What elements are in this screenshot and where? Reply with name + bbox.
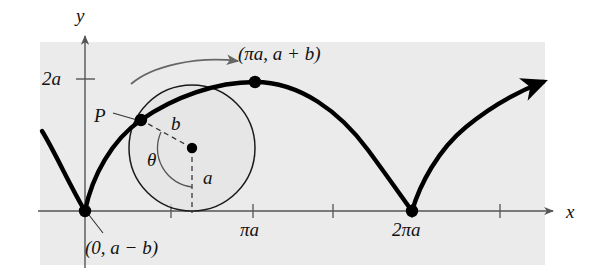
y-axis-label: y <box>76 6 84 25</box>
point-start-cusp <box>79 205 91 217</box>
y-tick-label-2a: 2a <box>42 69 61 88</box>
top-point-label: (πa, a + b) <box>238 44 321 63</box>
x-tick-label-2pia: 2πa <box>392 220 421 239</box>
start-point-label: (0, a − b) <box>85 238 158 257</box>
cycloid-figure: y x 2a P b a θ (πa, a + b) (0, a − b) πa… <box>0 0 597 280</box>
circle-center-dot <box>187 143 197 153</box>
point-second-cusp <box>406 205 418 217</box>
shaded-panel <box>40 42 545 265</box>
x-axis-label: x <box>566 202 574 221</box>
radius-a-label: a <box>203 168 213 187</box>
point-top <box>249 76 261 88</box>
point-P <box>135 114 147 126</box>
radius-b-label: b <box>171 114 181 133</box>
x-tick-label-pia: πa <box>240 220 259 239</box>
point-p-label: P <box>94 106 106 125</box>
theta-label: θ <box>147 150 156 169</box>
